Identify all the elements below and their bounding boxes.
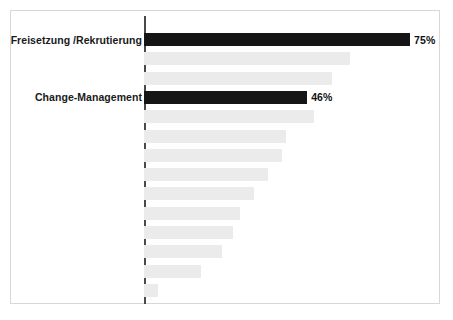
bar-row[interactable] — [0, 284, 453, 297]
bar-default[interactable] — [144, 149, 282, 162]
bar-default[interactable] — [144, 52, 350, 65]
bar-highlighted[interactable] — [144, 33, 410, 46]
bar-value-label: 75% — [414, 34, 435, 46]
bar-default[interactable] — [144, 226, 233, 239]
bar-category-label: Freisetzung /Rekrutierung — [11, 34, 142, 46]
bar-row[interactable]: Freisetzung /Rekrutierung75% — [0, 33, 453, 46]
bar-default[interactable] — [144, 245, 222, 258]
bar-series-layer: Freisetzung /Rekrutierung75%Change-Manag… — [0, 0, 453, 320]
bar-row[interactable]: Change-Management46% — [0, 91, 453, 104]
bar-row[interactable] — [0, 245, 453, 258]
bar-default[interactable] — [144, 284, 158, 297]
bar-row[interactable] — [0, 207, 453, 220]
bar-default[interactable] — [144, 207, 240, 220]
bar-row[interactable] — [0, 168, 453, 181]
bar-chart-figure: Freisetzung /Rekrutierung75%Change-Manag… — [0, 0, 453, 320]
bar-category-label: Change-Management — [35, 91, 142, 103]
bar-default[interactable] — [144, 265, 201, 278]
bar-default[interactable] — [144, 168, 268, 181]
bar-row[interactable] — [0, 187, 453, 200]
bar-row[interactable] — [0, 52, 453, 65]
bar-default[interactable] — [144, 130, 286, 143]
bar-row[interactable] — [0, 265, 453, 278]
bar-row[interactable] — [0, 130, 453, 143]
bar-default[interactable] — [144, 187, 254, 200]
bar-row[interactable] — [0, 110, 453, 123]
bar-default[interactable] — [144, 110, 314, 123]
bar-row[interactable] — [0, 149, 453, 162]
bar-row[interactable] — [0, 72, 453, 85]
bar-value-label: 46% — [311, 91, 332, 103]
bar-highlighted[interactable] — [144, 91, 307, 104]
bar-row[interactable] — [0, 226, 453, 239]
bar-default[interactable] — [144, 72, 332, 85]
